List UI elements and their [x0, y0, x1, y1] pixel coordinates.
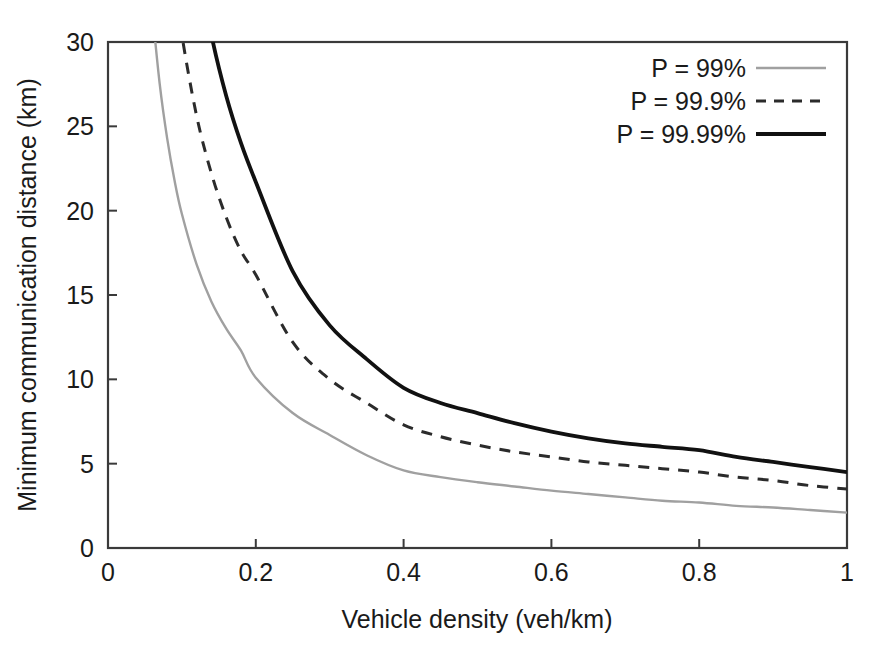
x-axis-title: Vehicle density (veh/km) [342, 605, 613, 633]
x-tick-label: 0.6 [534, 558, 569, 586]
chart-figure: 00.20.40.60.81 051015202530 P = 99%P = 9… [0, 0, 885, 651]
y-axis-ticks: 051015202530 [66, 28, 117, 562]
plot-frame [108, 42, 847, 548]
x-tick-label: 0.2 [238, 558, 273, 586]
legend-label-3: P = 99.99% [616, 120, 746, 148]
y-tick-label: 20 [66, 197, 94, 225]
x-tick-label: 0.4 [386, 558, 421, 586]
y-axis-title: Minimum communication distance (km) [13, 78, 41, 511]
y-tick-label: 15 [66, 281, 94, 309]
x-tick-label: 0 [101, 558, 115, 586]
y-tick-label: 30 [66, 28, 94, 56]
y-tick-label: 25 [66, 112, 94, 140]
y-tick-label: 10 [66, 365, 94, 393]
y-tick-label: 5 [80, 450, 94, 478]
x-axis-ticks: 00.20.40.60.81 [101, 539, 854, 586]
chart-legend: P = 99%P = 99.9%P = 99.99% [616, 54, 826, 148]
x-tick-label: 0.8 [682, 558, 717, 586]
x-tick-label: 1 [840, 558, 854, 586]
legend-label-1: P = 99% [651, 54, 746, 82]
line-chart: 00.20.40.60.81 051015202530 P = 99%P = 9… [0, 0, 885, 651]
legend-label-2: P = 99.9% [630, 87, 746, 115]
y-tick-label: 0 [80, 534, 94, 562]
